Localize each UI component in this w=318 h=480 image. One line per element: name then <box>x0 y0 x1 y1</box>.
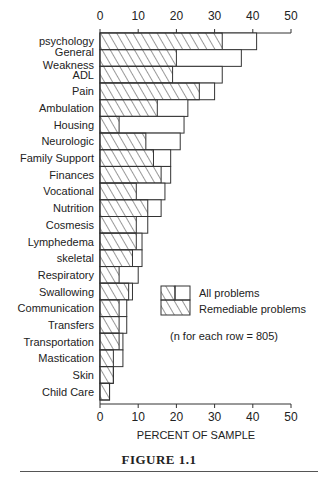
x-tick-label: 0 <box>97 9 104 23</box>
category-label: Skin <box>73 369 94 381</box>
category-label: Neurologic <box>41 135 94 147</box>
bar-remediable-problems <box>100 233 136 250</box>
top-x-axis: 01020304050 <box>97 9 298 33</box>
legend-note: (n for each row = 805) <box>170 330 278 342</box>
bar-remediable-problems <box>100 283 129 300</box>
category-label: ADL <box>73 69 94 81</box>
bar-remediable-problems <box>100 166 161 183</box>
bar-remediable-problems <box>100 350 113 367</box>
bar-remediable-problems <box>100 150 153 167</box>
x-tick-label: 20 <box>170 410 184 424</box>
legend-box-all-hatch <box>161 286 175 300</box>
category-label: Ambulation <box>39 102 94 114</box>
x-tick-label: 10 <box>132 9 146 23</box>
category-label: Finances <box>49 169 94 181</box>
category-label: Family Support <box>20 152 94 164</box>
category-label: Swallowing <box>39 286 94 298</box>
x-tick-label: 50 <box>284 9 298 23</box>
legend-label-all: All problems <box>199 287 260 299</box>
bar-remediable-problems <box>100 267 119 284</box>
x-tick-label: 50 <box>284 410 298 424</box>
category-label: Respiratory <box>38 269 95 281</box>
bar-remediable-problems <box>100 317 119 334</box>
bar-remediable-problems <box>100 200 148 217</box>
bar-remediable-problems <box>100 300 119 317</box>
category-label: Communication <box>18 302 94 314</box>
bar-remediable-problems <box>100 33 222 50</box>
x-tick-label: 40 <box>246 410 260 424</box>
bar-remediable-problems <box>100 250 132 267</box>
x-tick-label: 0 <box>97 410 104 424</box>
bar-remediable-problems <box>100 367 113 384</box>
bar-remediable-problems <box>100 383 110 400</box>
x-tick-label: 30 <box>208 410 222 424</box>
category-label: Housing <box>54 119 94 131</box>
x-tick-label: 20 <box>170 9 184 23</box>
bar-remediable-problems <box>100 133 146 150</box>
category-label: Child Care <box>42 386 94 398</box>
figure-caption: FIGURE 1.1 <box>0 452 318 468</box>
category-label: skeletal <box>57 252 94 264</box>
category-label: Pain <box>72 85 94 97</box>
bar-remediable-problems <box>100 333 119 350</box>
category-labels: psychologyGeneralWeaknessADLPainAmbulati… <box>18 35 95 397</box>
bar-remediable-problems <box>100 217 136 234</box>
bar-chart: 01020304050 psychologyGeneralWeaknessADL… <box>0 0 318 450</box>
bar-remediable-problems <box>100 50 176 67</box>
bar-remediable-problems <box>100 66 173 83</box>
legend: All problems Remediable problems (n for … <box>161 286 306 342</box>
category-label: Cosmesis <box>46 219 95 231</box>
category-label: Vocational <box>43 185 94 197</box>
bar-remediable-problems <box>100 100 157 117</box>
bar-remediable-problems <box>100 83 199 100</box>
x-tick-label: 40 <box>246 9 260 23</box>
x-tick-label: 10 <box>132 410 146 424</box>
legend-label-remediable: Remediable problems <box>199 303 306 315</box>
divider-line <box>20 471 318 472</box>
category-label: Lymphedema <box>28 236 95 248</box>
legend-box-all-white <box>175 286 190 300</box>
bar-remediable-problems <box>100 116 119 133</box>
x-axis-label: PERCENT OF SAMPLE <box>137 429 255 441</box>
bar-remediable-problems <box>100 183 136 200</box>
category-label: Transfers <box>48 319 95 331</box>
category-label: Mastication <box>38 352 94 364</box>
category-label: Transportation <box>23 336 94 348</box>
x-tick-label: 30 <box>208 9 222 23</box>
bars-group <box>100 33 257 404</box>
bottom-x-axis: 01020304050 <box>97 404 298 424</box>
category-label: Nutrition <box>53 202 94 214</box>
legend-box-remediable <box>161 300 190 315</box>
category-label: General <box>55 46 94 58</box>
